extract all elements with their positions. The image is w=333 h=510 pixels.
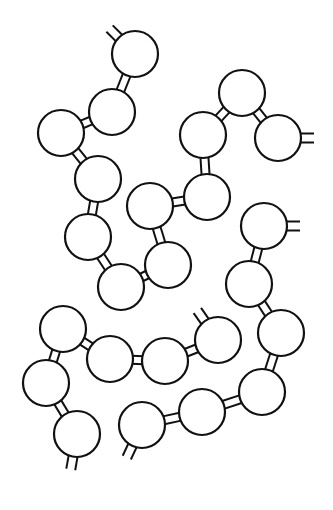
- bead-circle: [89, 89, 135, 135]
- bead-circle: [112, 31, 158, 77]
- chain-end-stub: [194, 313, 202, 324]
- bead-circle: [142, 338, 188, 384]
- link-line: [152, 227, 158, 246]
- bead-circle: [23, 360, 69, 406]
- link-line: [163, 420, 182, 424]
- bead-circle: [179, 389, 225, 435]
- link-line: [116, 72, 124, 91]
- bead-circle: [145, 242, 191, 288]
- chain-end-stub: [75, 456, 77, 470]
- link-line: [200, 156, 201, 176]
- link-line: [221, 395, 241, 402]
- bead-circle: [184, 174, 230, 220]
- bead-circle: [255, 115, 301, 161]
- bead-circle: [180, 112, 226, 158]
- chain-end-stub: [66, 455, 68, 469]
- bead-circle: [75, 156, 121, 202]
- polymer-chain-diagram: [0, 0, 333, 510]
- bead-circle: [195, 317, 241, 363]
- bead-circle: [38, 110, 84, 156]
- bead-circle: [258, 310, 304, 356]
- bead-circle: [65, 214, 111, 260]
- bead-circle: [127, 183, 173, 229]
- link-line: [123, 75, 131, 94]
- chain-end-stub: [123, 443, 129, 456]
- link-line: [265, 352, 271, 371]
- bead-circle: [239, 369, 285, 415]
- bead-circle: [87, 336, 133, 382]
- bead-circle: [219, 70, 265, 116]
- bead-circle: [40, 306, 86, 352]
- beads-layer: [23, 31, 304, 457]
- chain-end-stub: [201, 308, 209, 319]
- chain-end-stub: [131, 447, 137, 460]
- link-line: [223, 402, 243, 409]
- link-line: [272, 354, 278, 373]
- bead-circle: [241, 203, 287, 249]
- chain-end-stub: [106, 32, 116, 42]
- link-line: [160, 225, 166, 244]
- link-line: [162, 413, 181, 417]
- chain-end-stub: [113, 25, 123, 35]
- link-line: [208, 156, 209, 176]
- bead-circle: [98, 264, 144, 310]
- bead-circle: [54, 411, 100, 457]
- bead-circle: [119, 402, 165, 448]
- bead-circle: [226, 261, 272, 307]
